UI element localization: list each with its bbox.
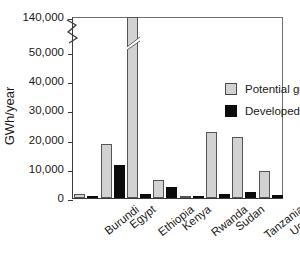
y-tick-label: 0 [0,192,64,204]
bar-chart: GWh/year Potential generation Developed … [0,0,300,254]
legend-swatch-developed-icon [225,105,237,117]
legend-item-potential: Potential generation [225,80,300,97]
y-tick-label: 10,000 [0,163,64,175]
plot-area: Potential generation Developed generatio… [72,17,283,199]
y-tick [68,200,73,201]
legend-swatch-potential-icon [225,83,237,95]
y-tick-label: 50,000 [0,46,64,58]
legend-label-potential: Potential generation [245,83,300,95]
y-tick-label: 30,000 [0,104,64,116]
legend-item-developed: Developed generation [225,102,300,119]
y-tick-label: 140,000 [0,11,64,23]
y-tick-label: 40,000 [0,75,64,87]
legend: Potential generation Developed generatio… [225,80,300,124]
bar-uganda-potential [259,171,270,198]
y-tick-label: 20,000 [0,134,64,146]
legend-label-developed: Developed generation [245,105,300,117]
bar-uganda-developed [272,195,283,199]
